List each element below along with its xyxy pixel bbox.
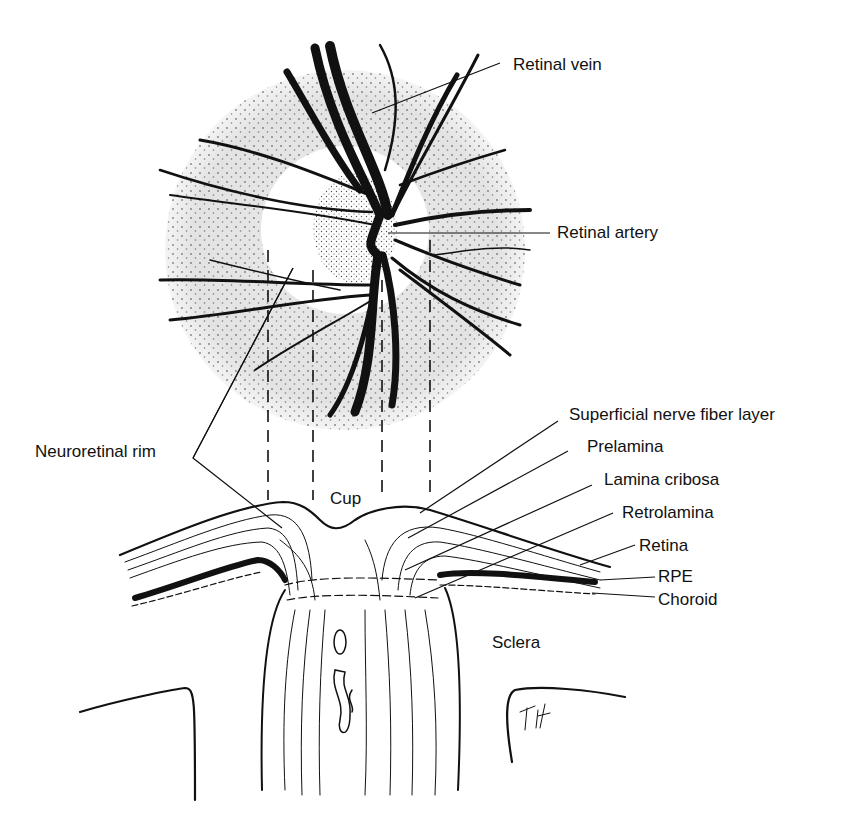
- label-retina: Retina: [639, 537, 688, 554]
- label-retinal-artery: Retinal artery: [557, 224, 658, 241]
- label-cup: Cup: [330, 490, 361, 507]
- fundus-view: [160, 45, 530, 500]
- label-sclera: Sclera: [492, 634, 540, 651]
- label-superficial-nerve-fiber-layer: Superficial nerve fiber layer: [569, 406, 775, 423]
- label-choroid: Choroid: [658, 591, 718, 608]
- label-neuroretinal-rim: Neuroretinal rim: [35, 443, 156, 460]
- label-lamina-cribosa: Lamina cribosa: [604, 471, 719, 488]
- cross-section: [80, 502, 625, 800]
- label-prelamina: Prelamina: [587, 438, 664, 455]
- label-rpe: RPE: [658, 568, 693, 585]
- label-retinal-vein: Retinal vein: [513, 56, 602, 73]
- label-retrolamina: Retrolamina: [622, 504, 714, 521]
